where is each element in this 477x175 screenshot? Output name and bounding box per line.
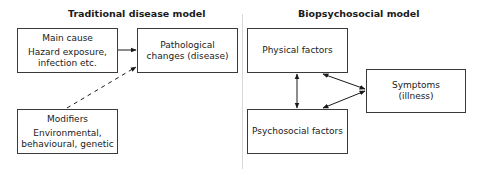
psychosocial-symptoms-arrow: [323, 91, 365, 108]
physical-symptoms-arrow: [323, 74, 365, 89]
connector-arrows: [0, 0, 477, 175]
modifiers-to-pathological-arrow: [67, 67, 136, 108]
